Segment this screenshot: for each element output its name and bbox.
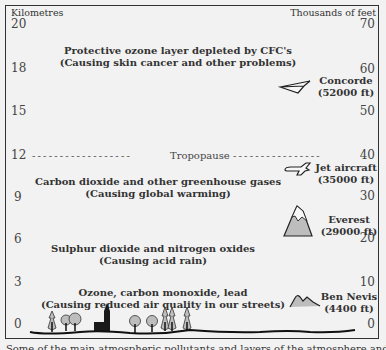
- figure-caption: Some of the main atmospheric pollutants …: [6, 343, 386, 350]
- ground-landscape: [0, 0, 386, 350]
- church-icon: [94, 303, 110, 331]
